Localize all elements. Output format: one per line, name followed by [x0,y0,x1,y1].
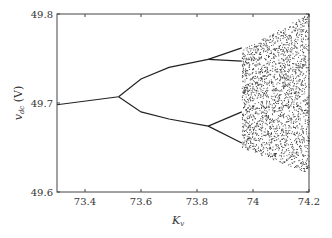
x-tick-label: 73.8 [186,196,208,207]
x-tick-label: 73.4 [74,196,96,207]
y-tick-label: 49.6 [31,187,53,198]
x-tick-labels: 73.473.673.87474.2 [74,196,320,207]
y-tick-label: 49.8 [31,9,53,20]
bifurcation-chart: 73.473.673.87474.2 49.649.749.8 Kv vdc (… [0,0,332,238]
y-axis-label: vdc (V) [12,86,26,121]
x-tick-label: 73.6 [130,196,152,207]
x-axis-label: Kv [171,214,184,228]
y-tick-label: 49.7 [31,98,53,109]
plot-frame [57,14,309,192]
x-tick-label: 74.2 [298,196,320,207]
y-tick-labels: 49.649.749.8 [31,9,53,198]
x-tick-label: 74 [247,196,260,207]
